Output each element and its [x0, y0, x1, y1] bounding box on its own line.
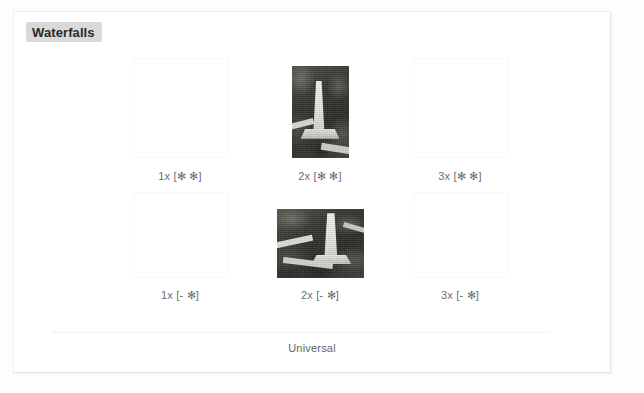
image-stage: [133, 46, 228, 158]
waterfalls-panel: Waterfalls 1x [✻ ✻]: [13, 11, 611, 373]
broken-image-icon: [133, 192, 228, 278]
gallery-cell[interactable]: 2x [✻ ✻]: [250, 46, 390, 182]
photo-grain-layer: [292, 66, 349, 158]
gallery-cell[interactable]: 2x [- ✻]: [250, 182, 390, 301]
panel-title-band: Waterfalls: [26, 22, 102, 42]
image-caption: 3x [✻ ✻]: [438, 171, 481, 182]
gallery-row: 1x [- ✻] 2x [- ✻]: [110, 182, 530, 301]
broken-image-icon: [413, 192, 508, 278]
waterfall-photo[interactable]: [277, 209, 364, 278]
broken-image-icon: [413, 58, 508, 158]
footer-label: Universal: [14, 342, 610, 354]
image-caption: 2x [✻ ✻]: [298, 171, 341, 182]
image-caption: 1x [- ✻]: [161, 290, 199, 301]
image-stage: [133, 182, 228, 278]
gallery-cell[interactable]: 1x [- ✻]: [110, 182, 250, 301]
image-stage: [413, 182, 508, 278]
gallery-cell[interactable]: 3x [- ✻]: [390, 182, 530, 301]
image-caption: 1x [✻ ✻]: [158, 171, 201, 182]
image-caption: 2x [- ✻]: [301, 290, 339, 301]
image-stage: [277, 182, 364, 278]
image-caption: 3x [- ✻]: [441, 290, 479, 301]
image-stage: [413, 46, 508, 158]
gallery-cell[interactable]: 3x [✻ ✻]: [390, 46, 530, 182]
image-gallery: 1x [✻ ✻] 2x [✻ ✻]: [110, 46, 530, 301]
broken-image-icon: [133, 58, 228, 158]
footer-divider: [52, 332, 550, 333]
waterfall-photo[interactable]: [292, 66, 349, 158]
image-stage: [292, 46, 349, 158]
page-root: Waterfalls 1x [✻ ✻]: [0, 0, 644, 393]
photo-grain-layer: [277, 209, 364, 278]
page-title: Waterfalls: [32, 26, 95, 39]
gallery-row: 1x [✻ ✻] 2x [✻ ✻]: [110, 46, 530, 182]
gallery-cell[interactable]: 1x [✻ ✻]: [110, 46, 250, 182]
